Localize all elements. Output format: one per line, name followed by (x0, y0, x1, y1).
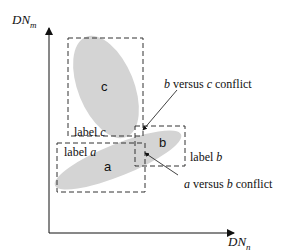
label-c-text: label c (74, 126, 106, 138)
cluster-b-label: b (159, 136, 166, 149)
cluster-c-label: c (101, 80, 108, 93)
diagram-canvas (0, 0, 294, 252)
label-b-text: label b (190, 151, 222, 163)
cluster-a-label: a (104, 160, 111, 173)
x-axis-label: DNn (228, 235, 251, 252)
bc-conflict-arrow (143, 90, 177, 130)
label-a-text: label a (64, 146, 96, 158)
bc-conflict-label: b versus c conflict (164, 78, 252, 90)
ab-conflict-label: a versus b conflict (184, 178, 272, 190)
ab-conflict-arrow (145, 153, 178, 175)
y-axis-label: DNm (12, 13, 37, 30)
